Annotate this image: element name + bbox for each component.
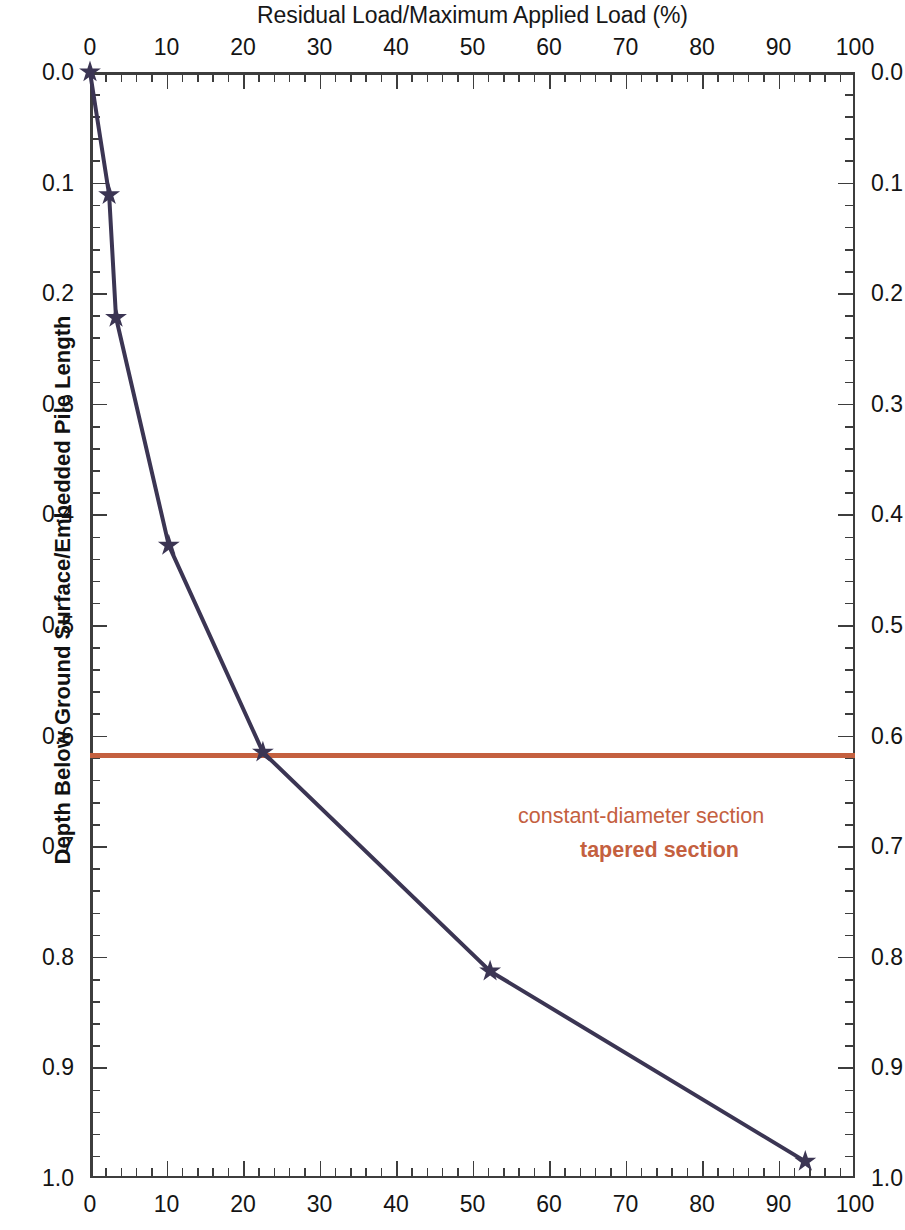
y-minor-tick xyxy=(845,337,855,339)
data-point-marker xyxy=(158,534,180,555)
x-minor-tick xyxy=(641,1168,643,1178)
y-minor-tick xyxy=(845,935,855,937)
x-minor-tick xyxy=(151,1168,153,1178)
y-tick-label: 0.5 xyxy=(42,612,74,639)
y-minor-tick xyxy=(90,448,100,450)
y-minor-tick xyxy=(90,979,100,981)
y-major-tick xyxy=(90,957,107,959)
data-point-marker xyxy=(98,183,120,204)
x-minor-tick xyxy=(733,72,735,82)
y-tick-label: 0.2 xyxy=(871,280,903,307)
y-minor-tick xyxy=(845,758,855,760)
y-minor-tick xyxy=(90,426,100,428)
x-major-tick xyxy=(702,1161,704,1178)
x-minor-tick xyxy=(794,72,796,82)
x-tick-label: 80 xyxy=(689,34,715,61)
y-tick-label: 0.8 xyxy=(42,943,74,970)
y-minor-tick xyxy=(90,249,100,251)
y-minor-tick xyxy=(845,537,855,539)
y-minor-tick xyxy=(845,160,855,162)
x-tick-label: 100 xyxy=(836,1191,874,1218)
x-minor-tick xyxy=(427,72,429,82)
y-minor-tick xyxy=(845,1001,855,1003)
x-tick-label: 0 xyxy=(84,1191,97,1218)
y-minor-tick xyxy=(845,249,855,251)
y-minor-tick xyxy=(90,913,100,915)
x-major-tick xyxy=(90,72,92,89)
y-minor-tick xyxy=(845,1112,855,1114)
y-minor-tick xyxy=(90,138,100,140)
y-minor-tick xyxy=(90,1045,100,1047)
x-minor-tick xyxy=(335,1168,337,1178)
x-minor-tick xyxy=(136,72,138,82)
y-major-tick xyxy=(90,1176,107,1178)
y-tick-label: 0.6 xyxy=(42,722,74,749)
y-minor-tick xyxy=(90,1134,100,1136)
y-major-tick xyxy=(90,846,107,848)
x-minor-tick xyxy=(457,1168,459,1178)
y-minor-tick xyxy=(845,448,855,450)
y-major-tick xyxy=(838,183,855,185)
x-minor-tick xyxy=(121,1168,123,1178)
y-minor-tick xyxy=(90,691,100,693)
y-minor-tick xyxy=(90,1156,100,1158)
x-tick-label: 70 xyxy=(613,34,639,61)
y-major-tick xyxy=(90,514,107,516)
y-minor-tick xyxy=(845,1090,855,1092)
x-minor-tick xyxy=(228,72,230,82)
y-minor-tick xyxy=(845,138,855,140)
x-tick-label: 80 xyxy=(689,1191,715,1218)
y-minor-tick xyxy=(845,315,855,317)
y-minor-tick xyxy=(90,890,100,892)
data-polyline xyxy=(90,72,805,1161)
y-minor-tick xyxy=(845,1023,855,1025)
x-major-tick xyxy=(243,72,245,89)
y-minor-tick xyxy=(90,94,100,96)
data-point-marker xyxy=(794,1150,816,1171)
x-minor-tick xyxy=(717,1168,719,1178)
x-minor-tick xyxy=(289,72,291,82)
y-tick-label: 0.4 xyxy=(42,501,74,528)
x-minor-tick xyxy=(763,1168,765,1178)
y-minor-tick xyxy=(845,559,855,561)
y-minor-tick xyxy=(90,337,100,339)
y-minor-tick xyxy=(845,913,855,915)
data-point-marker xyxy=(105,306,127,327)
y-major-tick xyxy=(838,957,855,959)
x-minor-tick xyxy=(411,72,413,82)
y-minor-tick xyxy=(845,802,855,804)
y-minor-tick xyxy=(90,1112,100,1114)
x-minor-tick xyxy=(488,72,490,82)
x-minor-tick xyxy=(121,72,123,82)
x-major-tick xyxy=(779,72,781,89)
x-minor-tick xyxy=(442,72,444,82)
y-tick-label: 0.9 xyxy=(42,1054,74,1081)
x-minor-tick xyxy=(350,1168,352,1178)
x-minor-tick xyxy=(717,72,719,82)
x-tick-label: 30 xyxy=(307,1191,333,1218)
y-minor-tick xyxy=(845,1156,855,1158)
y-major-tick xyxy=(838,625,855,627)
y-minor-tick xyxy=(90,227,100,229)
y-minor-tick xyxy=(90,581,100,583)
x-major-tick xyxy=(549,72,551,89)
y-major-tick xyxy=(838,72,855,74)
x-minor-tick xyxy=(182,72,184,82)
x-tick-label: 60 xyxy=(536,1191,562,1218)
x-major-tick xyxy=(779,1161,781,1178)
y-minor-tick xyxy=(845,713,855,715)
x-minor-tick xyxy=(427,1168,429,1178)
x-minor-tick xyxy=(564,1168,566,1178)
x-minor-tick xyxy=(182,1168,184,1178)
y-minor-tick xyxy=(845,581,855,583)
y-minor-tick xyxy=(90,537,100,539)
x-minor-tick xyxy=(809,72,811,82)
x-minor-tick xyxy=(656,72,658,82)
x-minor-tick xyxy=(580,1168,582,1178)
y-major-tick xyxy=(90,183,107,185)
x-tick-label: 100 xyxy=(836,34,874,61)
y-minor-tick xyxy=(845,360,855,362)
y-major-tick xyxy=(838,1067,855,1069)
x-minor-tick xyxy=(595,72,597,82)
y-minor-tick xyxy=(90,868,100,870)
